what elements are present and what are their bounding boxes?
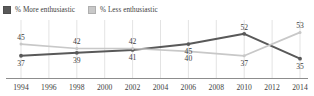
data-value-label: 45 bbox=[17, 33, 25, 42]
plot-svg bbox=[0, 20, 314, 78]
data-point-marker[interactable] bbox=[242, 32, 246, 36]
data-point-marker[interactable] bbox=[20, 43, 23, 46]
data-point-marker[interactable] bbox=[75, 51, 79, 55]
data-point-marker[interactable] bbox=[19, 54, 23, 58]
data-value-label: 53 bbox=[296, 21, 304, 30]
square-swatch-icon bbox=[3, 6, 11, 14]
x-axis-tick-label: 2002 bbox=[125, 81, 141, 94]
data-value-label: 52 bbox=[240, 23, 248, 32]
data-value-label: 41 bbox=[129, 53, 137, 62]
data-value-label: 42 bbox=[129, 37, 137, 46]
chart-legend: % More enthusiastic % Less enthusiastic bbox=[3, 3, 158, 16]
x-axis-tick-label: 2004 bbox=[153, 81, 169, 94]
data-value-label: 42 bbox=[73, 37, 81, 46]
x-axis-tick-label: 2010 bbox=[236, 81, 252, 94]
x-axis-tick-label: 1998 bbox=[69, 81, 85, 94]
data-value-label: 37 bbox=[240, 59, 248, 68]
x-axis-line bbox=[6, 78, 308, 79]
data-point-marker[interactable] bbox=[298, 57, 302, 61]
x-axis-tick-label: 2014 bbox=[292, 81, 308, 94]
legend-item-less-enthusiastic[interactable]: % Less enthusiastic bbox=[88, 6, 158, 14]
data-point-marker[interactable] bbox=[243, 54, 246, 57]
legend-label-less-enthusiastic: % Less enthusiastic bbox=[100, 6, 158, 14]
x-axis-tick-label: 2006 bbox=[181, 81, 197, 94]
legend-item-more-enthusiastic[interactable]: % More enthusiastic bbox=[3, 6, 75, 14]
data-point-marker[interactable] bbox=[299, 31, 302, 34]
square-swatch-icon bbox=[88, 6, 96, 14]
x-axis-tick-label: 1994 bbox=[13, 81, 29, 94]
data-point-marker[interactable] bbox=[75, 47, 78, 50]
plot-area bbox=[0, 20, 314, 78]
x-axis-tick-label: 1996 bbox=[41, 81, 57, 94]
x-axis-tick-label: 2012 bbox=[264, 81, 280, 94]
data-value-label: 35 bbox=[296, 62, 304, 71]
data-point-marker[interactable] bbox=[131, 47, 134, 50]
data-point-marker[interactable] bbox=[187, 42, 191, 46]
line-chart: % More enthusiastic % Less enthusiastic … bbox=[0, 0, 314, 96]
data-value-label: 39 bbox=[73, 56, 81, 65]
x-axis-labels: 1994199619982000200220042006200820102012… bbox=[0, 81, 314, 95]
x-axis-tick-label: 2000 bbox=[97, 81, 113, 94]
data-value-label: 37 bbox=[17, 59, 25, 68]
legend-label-more-enthusiastic: % More enthusiastic bbox=[15, 6, 75, 14]
x-axis-tick-label: 2008 bbox=[209, 81, 225, 94]
data-value-label: 40 bbox=[185, 54, 193, 63]
